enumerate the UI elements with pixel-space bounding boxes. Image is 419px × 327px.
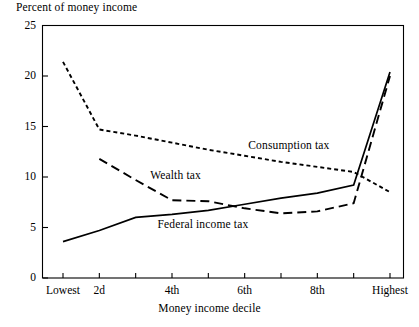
series-label-federal-income-tax: Federal income tax [157, 219, 248, 231]
series-lines [63, 62, 390, 242]
y-axis-tick-label: 0 [10, 272, 36, 284]
x-axis-tick-label: 6th [237, 285, 252, 297]
x-axis-title: Money income decile [0, 302, 419, 314]
x-axis-ticks [63, 273, 390, 278]
x-axis-tick-label: Lowest [46, 285, 80, 297]
plot-area [0, 0, 419, 327]
series-line [63, 62, 390, 192]
x-axis-tick-label: 8th [310, 285, 325, 297]
x-axis-tick-label: Highest [372, 285, 408, 297]
series-line [63, 72, 390, 242]
series-line [99, 76, 390, 213]
x-axis-tick-label: 4th [165, 285, 180, 297]
y-axis-tick-label: 25 [10, 20, 36, 32]
x-axis-tick-label: 2d [94, 285, 106, 297]
plot-frame [43, 26, 404, 279]
y-axis-tick-label: 5 [10, 222, 36, 234]
series-label-wealth-tax: Wealth tax [150, 170, 201, 182]
y-axis-ticks [43, 76, 48, 278]
chart-container: Percent of money income 0510152025 Lowes… [0, 0, 419, 327]
y-axis-tick-label: 20 [10, 70, 36, 82]
y-axis-tick-label: 15 [10, 121, 36, 133]
y-axis-tick-label: 10 [10, 171, 36, 183]
series-label-consumption-tax: Consumption tax [248, 140, 329, 152]
